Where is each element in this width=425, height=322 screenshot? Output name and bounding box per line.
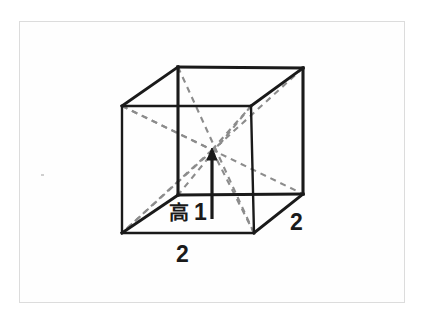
edge-topright-connector <box>251 68 303 106</box>
diagonal-center-to-backtopright <box>212 106 251 150</box>
cube-diagram <box>0 0 425 322</box>
edge-topleft-connector <box>122 67 178 106</box>
label-width-bottom: 2 <box>176 243 189 266</box>
label-height-character: 高 <box>169 203 189 223</box>
diagonal-center-to-backbottomright <box>212 150 254 233</box>
edge-front-top <box>178 67 303 68</box>
diagonal-backtopright-to-frontbottomleft <box>178 106 251 195</box>
label-height-value: 1 <box>194 201 207 224</box>
figure-page: 高 1 2 2 <box>0 0 425 322</box>
label-depth-right: 2 <box>290 211 303 234</box>
edge-back-right-vertical <box>251 106 254 233</box>
edge-front-bottom <box>178 194 303 195</box>
height-arrow <box>207 148 217 219</box>
